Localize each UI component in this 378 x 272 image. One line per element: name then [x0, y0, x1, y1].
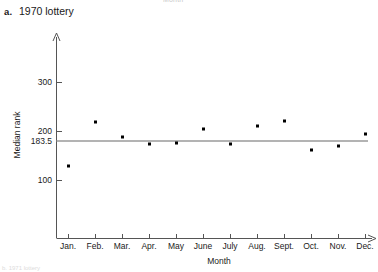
clipped-caption-below: b. 1971 lottery	[2, 265, 40, 271]
x-tick-label-feb: Feb.	[86, 241, 103, 251]
x-axis	[57, 235, 377, 242]
data-point	[121, 136, 124, 139]
y-tick-label-300: 300	[20, 77, 52, 87]
data-point	[67, 165, 70, 168]
x-axis-title: Month	[0, 256, 378, 266]
x-axis-ticks	[69, 234, 366, 239]
x-tick-label-jan: Jan.	[60, 241, 76, 251]
data-point	[229, 143, 232, 146]
data-point	[175, 142, 178, 145]
y-axis-title: Median rank	[12, 100, 22, 170]
x-tick-label-july: July	[222, 241, 237, 251]
panel-title: 1970 lottery	[19, 5, 74, 17]
data-point	[364, 133, 367, 136]
data-point	[148, 143, 151, 146]
x-tick-label-apr: Apr.	[141, 241, 156, 251]
x-axis-title-text: Month	[207, 256, 231, 266]
data-point	[256, 125, 259, 128]
x-tick-label-sept: Sept.	[274, 241, 294, 251]
data-point	[310, 149, 313, 152]
x-tick-label-nov: Nov.	[330, 241, 347, 251]
y-tick-label-200: 200	[20, 126, 52, 136]
chart-svg	[0, 0, 378, 272]
y-axis-ticks	[57, 83, 63, 181]
x-tick-label-oct: Oct.	[303, 241, 319, 251]
panel-letter: a.	[4, 6, 12, 17]
data-point	[202, 128, 205, 131]
x-tick-label-mar: Mar.	[114, 241, 131, 251]
data-markers	[67, 120, 367, 168]
y-tick-label-100: 100	[20, 175, 52, 185]
x-tick-label-june: June	[194, 241, 212, 251]
data-point	[94, 121, 97, 124]
x-tick-label-may: May	[168, 241, 184, 251]
figure-panel-a: Month a. 1970 lottery	[0, 0, 378, 272]
plot-area	[0, 0, 378, 272]
x-tick-label-dec: Dec.	[356, 241, 373, 251]
clipped-axis-title-above: Month	[163, 0, 183, 3]
data-point	[337, 145, 340, 148]
x-tick-label-aug: Aug.	[248, 241, 266, 251]
data-point	[283, 120, 286, 123]
y-axis	[53, 33, 60, 238]
